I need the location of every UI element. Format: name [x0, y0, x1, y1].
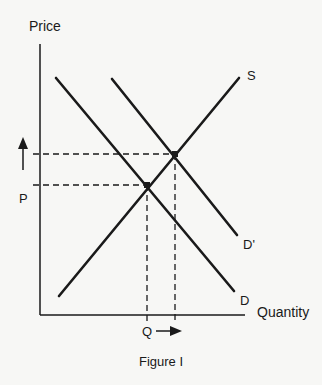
supply-label: S [247, 68, 256, 83]
new-equilibrium-point [172, 151, 178, 157]
x-axis-label: Quantity [257, 304, 309, 320]
up-arrow-icon [18, 137, 28, 170]
price-label: P [19, 191, 28, 206]
dashed-guides [33, 154, 175, 322]
initial-equilibrium-point [144, 182, 150, 188]
right-arrow-icon [156, 326, 182, 336]
demand-label: D [240, 293, 249, 308]
demand-shifted-label: D' [243, 237, 255, 252]
supply-demand-diagram: Price Quantity S D D' P Q Figure I [0, 0, 322, 385]
quantity-label: Q [142, 324, 152, 339]
figure-caption: Figure I [139, 354, 183, 369]
y-axis-label: Price [29, 18, 61, 34]
